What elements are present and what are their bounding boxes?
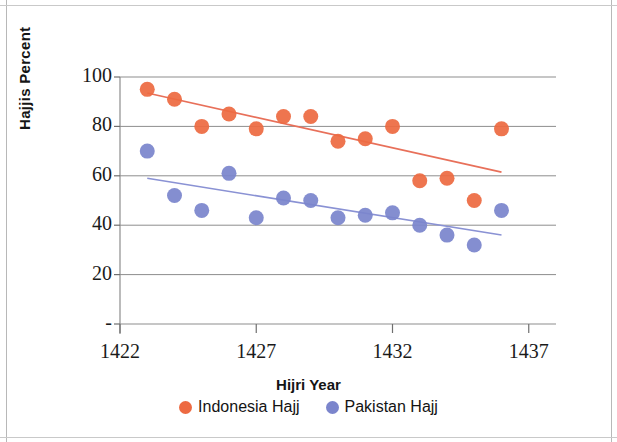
scatter-chart: - 20 40 60 80 100 1422 1427 1432 1437 Ha… xyxy=(0,0,617,442)
y-tick-label: 80 xyxy=(40,113,112,136)
data-point[interactable] xyxy=(303,193,318,208)
data-point[interactable] xyxy=(412,218,427,233)
data-point[interactable] xyxy=(249,210,264,225)
data-point[interactable] xyxy=(331,210,346,225)
data-point[interactable] xyxy=(358,208,373,223)
data-point[interactable] xyxy=(167,92,182,107)
y-tick-label: 40 xyxy=(40,212,112,235)
y-tick-label: 20 xyxy=(40,262,112,285)
y-axis-title: Hajjis Percent xyxy=(16,27,33,130)
x-axis-title: Hijri Year xyxy=(0,376,617,393)
legend-marker-icon xyxy=(326,401,339,414)
data-point[interactable] xyxy=(276,109,291,124)
x-tick-label: 1437 xyxy=(484,340,574,363)
data-point[interactable] xyxy=(440,228,455,243)
y-tick-label: 60 xyxy=(40,163,112,186)
data-point[interactable] xyxy=(467,193,482,208)
data-point[interactable] xyxy=(194,119,209,134)
data-point[interactable] xyxy=(494,121,509,136)
chart-legend: Indonesia Hajj Pakistan Hajj xyxy=(0,398,617,416)
data-point[interactable] xyxy=(249,121,264,136)
data-point[interactable] xyxy=(303,109,318,124)
data-point[interactable] xyxy=(140,144,155,159)
legend-item-indonesia[interactable]: Indonesia Hajj xyxy=(179,398,299,416)
data-point[interactable] xyxy=(385,205,400,220)
data-point[interactable] xyxy=(331,134,346,149)
data-point[interactable] xyxy=(140,82,155,97)
data-point[interactable] xyxy=(467,237,482,252)
data-point[interactable] xyxy=(194,203,209,218)
y-tick-label: 100 xyxy=(40,64,112,87)
legend-label: Pakistan Hajj xyxy=(345,398,438,416)
data-point[interactable] xyxy=(385,119,400,134)
data-point[interactable] xyxy=(222,107,237,122)
legend-marker-icon xyxy=(179,401,192,414)
x-tick-label: 1432 xyxy=(348,340,438,363)
x-tick-label: 1422 xyxy=(75,340,165,363)
y-tick-label: - xyxy=(40,311,112,334)
x-tick-label: 1427 xyxy=(211,340,301,363)
data-point[interactable] xyxy=(222,166,237,181)
data-point[interactable] xyxy=(276,191,291,206)
data-point[interactable] xyxy=(412,173,427,188)
data-point[interactable] xyxy=(494,203,509,218)
legend-label: Indonesia Hajj xyxy=(198,398,299,416)
data-point[interactable] xyxy=(440,171,455,186)
chart-screenshot: - 20 40 60 80 100 1422 1427 1432 1437 Ha… xyxy=(0,0,617,442)
legend-item-pakistan[interactable]: Pakistan Hajj xyxy=(326,398,438,416)
data-point[interactable] xyxy=(358,131,373,146)
data-point[interactable] xyxy=(167,188,182,203)
